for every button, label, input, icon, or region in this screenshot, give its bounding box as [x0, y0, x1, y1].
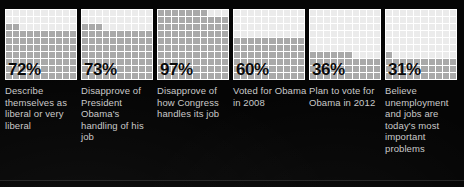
- waffle-cell: [429, 17, 435, 23]
- waffle-cell: [165, 17, 171, 23]
- stat-label: Believe unemployment and jobs are today'…: [385, 85, 459, 155]
- waffle-cell: [20, 31, 26, 37]
- waffle-cell: [63, 31, 69, 37]
- waffle-cell: [110, 45, 116, 51]
- stats-row: 72% Describe themselves as liberal or ve…: [5, 9, 464, 155]
- waffle-cell: [338, 31, 344, 37]
- waffle-cell: [436, 52, 442, 58]
- waffle-cell: [284, 17, 290, 23]
- waffle-cell: [291, 31, 297, 37]
- waffle-cell: [96, 17, 102, 23]
- waffle-cell: [63, 73, 69, 79]
- waffle-cell: [367, 31, 373, 37]
- waffle-cell: [193, 31, 199, 37]
- waffle-cell: [360, 10, 366, 16]
- waffle-cell: [165, 52, 171, 58]
- waffle-cell: [324, 31, 330, 37]
- waffle-cell: [139, 24, 145, 30]
- waffle-cell: [407, 31, 413, 37]
- waffle-cell: [117, 52, 123, 58]
- stat-column: 36% Plan to vote for Obama in 2012: [309, 9, 381, 108]
- waffle-cell: [400, 45, 406, 51]
- waffle-cell: [56, 52, 62, 58]
- waffle-cell: [400, 24, 406, 30]
- waffle-cell: [310, 45, 316, 51]
- waffle-cell: [222, 38, 228, 44]
- waffle-cell: [367, 66, 373, 72]
- waffle-cell: [269, 17, 275, 23]
- waffle-cell: [56, 38, 62, 44]
- waffle-cell: [56, 10, 62, 16]
- waffle-cell: [450, 73, 456, 79]
- waffle-cell: [201, 52, 207, 58]
- waffle-cell: [331, 10, 337, 16]
- waffle-cell: [414, 24, 420, 30]
- waffle-cell: [193, 59, 199, 65]
- waffle-cell: [146, 38, 152, 44]
- waffle-cell: [193, 10, 199, 16]
- waffle-cell: [324, 10, 330, 16]
- waffle-cell: [436, 38, 442, 44]
- waffle-cell: [277, 66, 283, 72]
- waffle-cell: [146, 52, 152, 58]
- waffle-cell: [310, 52, 316, 58]
- waffle-cell: [393, 24, 399, 30]
- waffle-cell: [277, 17, 283, 23]
- waffle-cell: [443, 38, 449, 44]
- waffle-cell: [360, 38, 366, 44]
- waffle-cell: [353, 24, 359, 30]
- waffle-cell: [158, 10, 164, 16]
- waffle-cell: [70, 38, 76, 44]
- waffle-cell: [310, 24, 316, 30]
- waffle-cell: [386, 10, 392, 16]
- waffle-cell: [146, 31, 152, 37]
- waffle-cell: [27, 31, 33, 37]
- waffle-cell: [96, 38, 102, 44]
- waffle-cell: [429, 38, 435, 44]
- waffle-cell: [248, 52, 254, 58]
- waffle-cell: [158, 45, 164, 51]
- waffle-cell: [49, 66, 55, 72]
- waffle-cell: [186, 52, 192, 58]
- waffle-cell: [255, 52, 261, 58]
- waffle-cell: [291, 24, 297, 30]
- waffle-cell: [241, 17, 247, 23]
- waffle-cell: [374, 38, 380, 44]
- stat-label: Disapprove of how Congress handles its j…: [157, 85, 231, 120]
- waffle-cell: [215, 45, 221, 51]
- waffle-cell: [208, 24, 214, 30]
- waffle-cell: [291, 38, 297, 44]
- waffle-cell: [248, 10, 254, 16]
- waffle-cell: [96, 31, 102, 37]
- waffle-cell: [63, 10, 69, 16]
- waffle-cell: [234, 52, 240, 58]
- waffle-cell: [241, 24, 247, 30]
- waffle-cell: [186, 24, 192, 30]
- waffle-cell: [241, 45, 247, 51]
- stat-value: 36%: [312, 61, 345, 78]
- waffle-cell: [179, 24, 185, 30]
- waffle-cell: [443, 59, 449, 65]
- waffle-cell: [103, 31, 109, 37]
- waffle-cell: [222, 59, 228, 65]
- waffle-cell: [158, 52, 164, 58]
- waffle-cell: [27, 24, 33, 30]
- waffle-cell: [201, 10, 207, 16]
- waffle-cell: [374, 10, 380, 16]
- waffle-cell: [158, 38, 164, 44]
- waffle-chart: 73%: [81, 9, 153, 80]
- waffle-cell: [70, 66, 76, 72]
- waffle-cell: [20, 10, 26, 16]
- waffle-cell: [360, 66, 366, 72]
- waffle-cell: [117, 66, 123, 72]
- waffle-cell: [269, 24, 275, 30]
- waffle-cell: [353, 10, 359, 16]
- waffle-cell: [13, 45, 19, 51]
- waffle-cell: [186, 10, 192, 16]
- waffle-cell: [345, 24, 351, 30]
- waffle-cell: [269, 52, 275, 58]
- waffle-cell: [89, 52, 95, 58]
- waffle-cell: [407, 24, 413, 30]
- waffle-cell: [132, 45, 138, 51]
- waffle-cell: [298, 52, 304, 58]
